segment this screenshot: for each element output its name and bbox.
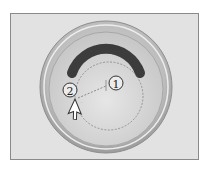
callout-2: 2 — [63, 83, 77, 98]
callout-1: 1 — [109, 76, 123, 91]
svg-text:1: 1 — [113, 78, 120, 91]
svg-text:2: 2 — [67, 85, 74, 98]
diagram-canvas: 1 2 ... — [0, 0, 212, 169]
cursor-hint: ... — [80, 100, 83, 104]
